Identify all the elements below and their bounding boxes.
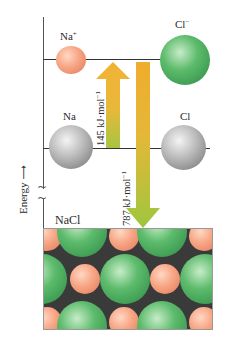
lattice-cl-ion bbox=[137, 301, 187, 330]
lattice-cl-ion bbox=[100, 254, 150, 304]
lattice-cl-ion bbox=[137, 228, 187, 257]
cl-ion-label: Cl− bbox=[175, 18, 189, 30]
lattice-na-ion bbox=[150, 264, 180, 294]
lattice-na-ion bbox=[70, 264, 100, 294]
axis-break-mark-bottom: ~ bbox=[37, 191, 47, 205]
na-ion-label: Na+ bbox=[60, 30, 77, 42]
lattice-na-ion bbox=[109, 228, 139, 251]
lattice-na-ion bbox=[189, 228, 213, 251]
energy-arrow-icon: ⟶ bbox=[18, 165, 29, 179]
lattice-na-ion bbox=[109, 307, 139, 330]
cl-ion-sphere bbox=[160, 35, 210, 85]
na-atom-sphere bbox=[49, 125, 93, 169]
lattice-energy-label: 787 kJ·mol−1 bbox=[120, 171, 132, 226]
lattice-na-ion bbox=[189, 307, 213, 330]
energy-axis-upper bbox=[43, 17, 44, 189]
nacl-label: NaCl bbox=[55, 214, 80, 226]
ionization-energy-label: 145 kJ·mol−1 bbox=[94, 91, 106, 146]
lattice-cl-ion bbox=[180, 254, 213, 304]
na-atom-label: Na bbox=[63, 110, 76, 122]
nacl-crystal-lattice bbox=[43, 228, 213, 330]
na-ion-sphere bbox=[56, 46, 86, 74]
lattice-cl-ion bbox=[43, 254, 67, 304]
lattice-cl-ion bbox=[57, 228, 107, 257]
cl-atom-sphere bbox=[161, 125, 206, 170]
cl-atom-label: Cl bbox=[180, 110, 190, 122]
lattice-cl-ion bbox=[57, 301, 107, 330]
energy-axis-label: Energy ⟶ bbox=[17, 165, 29, 214]
